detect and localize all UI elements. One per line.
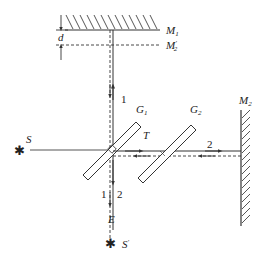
label-d: d: [58, 31, 64, 43]
label-t: T: [143, 129, 150, 141]
label-g2: G2: [190, 103, 202, 117]
label-m2: M2: [238, 94, 252, 108]
label-m1: M1: [165, 24, 179, 38]
mirror-m2: [241, 110, 250, 226]
michelson-interferometer-diagram: M1 M′2 d 1 ✱ S G1 T 2 G: [0, 0, 266, 266]
label-beam-1-upper: 1: [121, 93, 127, 105]
source-star-icon: ✱: [14, 143, 25, 158]
beam-2-horizontal: [113, 151, 241, 156]
image-source-star-icon: ✱: [105, 236, 116, 251]
label-image-source: S′: [122, 238, 130, 250]
label-source-s: S: [26, 133, 32, 145]
label-beam-2-lower: 2: [117, 188, 123, 200]
label-beam-2-right: 2: [207, 138, 213, 150]
label-eye-e: E: [107, 213, 115, 225]
label-beam-1-lower: 1: [101, 188, 107, 200]
label-m2-prime: M′2: [165, 39, 178, 53]
label-g1: G1: [136, 103, 147, 117]
beam-1-vertical: [110, 30, 113, 240]
mirror-m1: [65, 15, 160, 30]
